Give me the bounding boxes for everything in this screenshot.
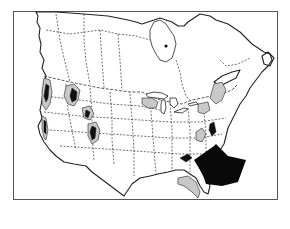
province-border [56, 14, 70, 82]
province-border [100, 30, 104, 88]
range-sierra-core [44, 120, 46, 134]
state-border [110, 92, 114, 164]
province-border [118, 34, 122, 90]
province-border [84, 14, 90, 84]
state-border [170, 104, 172, 170]
range-appalachians [196, 128, 206, 142]
range-great-lakes [142, 98, 158, 108]
lake-erie [174, 108, 188, 113]
state-border [188, 108, 190, 172]
arrow-marker [194, 144, 246, 186]
state-border [44, 112, 226, 122]
range-new-york [198, 102, 210, 114]
north-america-map [0, 0, 290, 229]
province-border [220, 58, 250, 66]
lake-ontario [188, 102, 198, 106]
lake-huron [170, 98, 178, 108]
island-dot [164, 44, 167, 47]
state-border [60, 146, 210, 154]
lake-michigan [161, 100, 166, 114]
province-border [176, 60, 190, 100]
province-border [46, 30, 150, 40]
range-quebec-new-england [210, 82, 226, 104]
hudson-bay [150, 20, 176, 62]
state-border [130, 94, 134, 176]
range-chesapeake [209, 122, 216, 136]
